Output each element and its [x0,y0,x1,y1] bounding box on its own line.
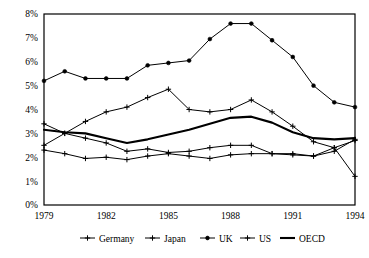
data-point-marker [332,100,336,104]
y-axis-tick-labels: 0%1%2%3%4%5%6%7%8% [25,9,38,210]
data-point-marker [125,77,129,81]
x-tick-label: 1988 [221,211,240,221]
data-point-marker [206,236,210,240]
data-point-marker [84,77,88,81]
y-tick-label: 3% [25,129,38,139]
data-point-marker [104,77,108,81]
data-point-marker [63,69,67,73]
x-tick-label: 1979 [35,211,54,221]
y-tick-label: 2% [25,153,38,163]
data-point-marker [291,55,295,59]
data-point-marker [167,61,171,65]
y-tick-label: 1% [25,177,38,187]
legend-label: OECD [299,234,325,244]
x-tick-label: 1982 [97,211,116,221]
legend-label: US [259,234,271,244]
data-point-marker [208,37,212,41]
data-point-marker [42,79,46,83]
y-tick-label: 5% [25,81,38,91]
legend-label: UK [219,234,233,244]
x-tick-label: 1985 [159,211,178,221]
data-point-marker [270,38,274,42]
data-point-marker [249,22,253,26]
data-point-marker [187,59,191,63]
x-tick-label: 1991 [283,211,302,221]
y-tick-label: 4% [25,105,38,115]
y-tick-label: 7% [25,33,38,43]
legend-label: Germany [99,234,135,244]
line-chart: 0%1%2%3%4%5%6%7%8% 197919821985198819911… [0,0,369,258]
y-tick-label: 0% [25,200,38,210]
chart-container: 0%1%2%3%4%5%6%7%8% 197919821985198819911… [0,0,369,258]
x-tick-label: 1994 [346,211,365,221]
y-tick-label: 6% [25,57,38,67]
data-point-marker [353,105,357,109]
data-point-marker [312,84,316,88]
data-point-marker [146,63,150,67]
legend-label: Japan [164,234,186,244]
y-tick-label: 8% [25,9,38,19]
data-point-marker [229,22,233,26]
